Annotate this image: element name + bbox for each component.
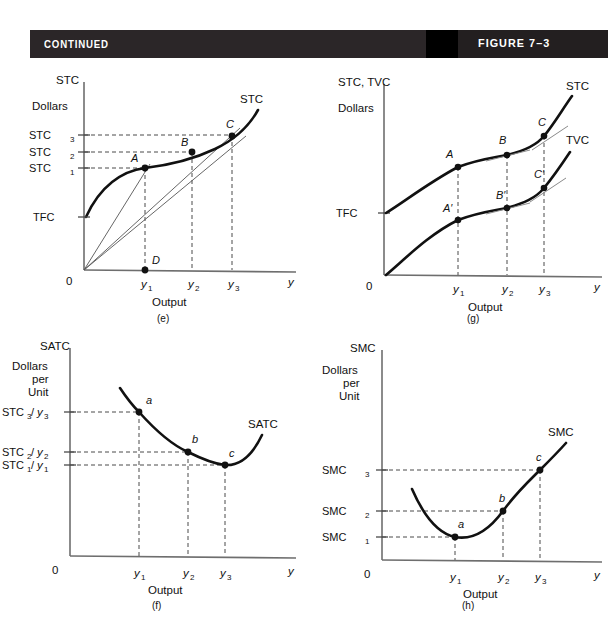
panel-h-x-axis-title: Output (463, 588, 498, 600)
panel-e-xticklabel-y1: y (140, 278, 148, 290)
panel-f-xticklabel-y2-sub: 2 (190, 573, 195, 582)
panel-e-origin-label: 0 (66, 275, 72, 287)
continued-label: CONTINUED (44, 38, 109, 50)
panel-h-label-c: c (536, 451, 542, 463)
panel-g-xticklabel-y3: y (538, 283, 546, 295)
panel-e-y-axis-label: STC (56, 74, 79, 86)
panel-g-point-b (504, 152, 511, 159)
panel-e-xticklabel-y2: y (187, 278, 195, 290)
panel-f-origin-label: 0 (52, 564, 58, 576)
panel-g-xticklabel-y3-sub: 3 (546, 289, 551, 298)
panel-f-x-axis (70, 556, 296, 558)
panel-f-point-c (222, 462, 229, 469)
panel-e-label-a: A (130, 152, 138, 164)
panel-f-xticklabel-y1-sub: 1 (141, 573, 146, 582)
panel-g-y-axis-label: STC, TVC (338, 76, 390, 88)
panel-caption-e: (e) (157, 313, 169, 324)
panel-e-point-d (142, 267, 149, 274)
panel-g-label-c-prime: C′ (534, 168, 545, 180)
panel-h-xticklabel-y1: y (449, 571, 457, 583)
panel-h-point-a (452, 534, 459, 541)
panel-h-ticklabel-smc3-sub: 3 (365, 470, 370, 479)
panel-g-point-a (455, 164, 462, 171)
panel-f-label-b: b (192, 433, 198, 445)
chart-panel-e: STC Dollars STC STC 3 STC 2 STC 1 TFC A … (0, 70, 310, 320)
panel-f-ticklabel-3-den-sub: 3 (44, 412, 49, 421)
panel-caption-f: (f) (152, 600, 161, 611)
panel-e-ticklabel-tfc: TFC (33, 211, 54, 223)
panel-h-ticklabel-smc1-sub: 1 (365, 537, 370, 546)
panel-h-smc-curve (412, 443, 566, 538)
panel-h-units-line3: Unit (339, 390, 360, 402)
panel-f-xticklabel-y3-sub: 3 (227, 573, 232, 582)
panel-f-point-a (136, 409, 143, 416)
panel-f-curve-label: SATC (248, 418, 278, 430)
panel-h-units-line1: Dollars (322, 364, 358, 376)
panel-f-xticklabel-y2: y (182, 567, 190, 579)
panel-h-label-a: a (458, 518, 464, 530)
chart-panel-f: SATC Dollars per Unit SATC STC 3 / y 3 S… (0, 330, 310, 600)
panel-e-ticklabel-stc3: STC (29, 129, 51, 141)
panel-e-xticklabel-y2-sub: 2 (195, 284, 200, 293)
panel-e-label-d: D (152, 254, 160, 266)
panel-f-xticklabel-y1: y (133, 567, 141, 579)
chart-panel-g: STC, TVC Dollars STC TVC TFC A B C A′ B′… (300, 70, 616, 320)
panel-f-y-axis-label: SATC (40, 340, 70, 352)
panel-caption-g: (g) (467, 313, 479, 324)
panel-f-xticklabel-y3: y (219, 567, 227, 579)
panel-h-point-b (500, 508, 507, 515)
panel-f-ticklabel-2-num: STC (2, 446, 24, 458)
panel-e-ticklabel-stc2: STC (29, 146, 51, 158)
panel-h-label-b: b (499, 492, 505, 504)
panel-g-x-axis (384, 275, 602, 277)
panel-e-point-a (142, 165, 149, 172)
panel-h-units-line2: per (343, 377, 360, 389)
panel-g-units-label: Dollars (338, 102, 374, 114)
panel-h-ticklabel-smc2-sub: 2 (365, 511, 370, 520)
panel-h-ticklabel-smc2: SMC (322, 505, 347, 517)
panel-g-point-b-prime (504, 205, 511, 212)
panel-f-ticklabel-1-num: STC (2, 459, 24, 471)
panel-e-ticklabel-stc1-sub: 1 (70, 168, 75, 177)
panel-g-label-a-prime: A′ (442, 202, 453, 214)
panel-f-units-line1: Dollars (12, 360, 48, 372)
panel-e-point-c (229, 133, 236, 140)
panel-e-ticklabel-stc3-sub: 3 (70, 135, 75, 144)
figure-header-band: CONTINUED FIGURE 7–3 (30, 30, 608, 58)
panel-f-ticklabel-3-num: STC (2, 406, 24, 418)
panel-h-x-axis (382, 560, 602, 562)
panel-f-x-axis-title: Output (148, 584, 183, 596)
panel-g-point-c-prime (541, 185, 548, 192)
panel-f-ticklabel-2-den-sub: 2 (44, 452, 49, 461)
panel-g-xticklabel-y2: y (501, 283, 509, 295)
panel-h-origin-label: 0 (364, 568, 370, 580)
panel-f-ticklabel-2-den: y (36, 446, 44, 458)
panel-e-ray-to-c (84, 136, 246, 270)
panel-e-curve-label: STC (240, 93, 263, 105)
panel-e-point-b (189, 149, 196, 156)
panel-h-y-axis-label: SMC (350, 342, 376, 354)
panel-g-xticklabel-y2-sub: 2 (509, 289, 514, 298)
panel-f-ticklabel-2-slash: / (31, 446, 35, 458)
panel-g-x-axis-title: Output (468, 301, 503, 313)
panel-h-curve-label: SMC (548, 426, 574, 438)
panel-g-point-c (541, 133, 548, 140)
panel-g-origin-label: 0 (366, 280, 372, 292)
panel-g-point-a-prime (455, 217, 462, 224)
panel-h-ticklabel-smc3: SMC (322, 464, 347, 476)
panel-g-label-b: B (499, 134, 506, 146)
panel-h-xticklabel-y2: y (497, 571, 505, 583)
panel-f-units-line3: Unit (28, 386, 49, 398)
panel-f-ticklabel-1-den-sub: 1 (44, 465, 49, 474)
panel-g-x-axis-symbol: y (593, 281, 601, 293)
panel-e-x-axis (84, 270, 296, 272)
panel-f-units-line2: per (32, 373, 49, 385)
panel-e-ticklabel-stc2-sub: 2 (70, 152, 75, 161)
panel-f-label-c: c (229, 447, 235, 459)
panel-h-point-c (537, 467, 544, 474)
panel-h-xticklabel-y3-sub: 3 (542, 577, 547, 586)
panel-h-x-axis-symbol: y (593, 569, 601, 581)
panel-e-xticklabel-y3-sub: 3 (235, 284, 240, 293)
panel-e-xticklabel-y3: y (227, 278, 235, 290)
panel-f-ticklabel-1-slash: / (31, 459, 35, 471)
